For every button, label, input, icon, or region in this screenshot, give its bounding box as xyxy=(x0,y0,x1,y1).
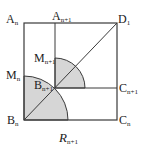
diagram-caption: Rn+1 xyxy=(58,130,78,146)
label-M-n1: Mn+1 xyxy=(34,51,56,66)
label-C-n: Cn xyxy=(119,113,131,128)
label-D-1: D1 xyxy=(118,12,131,27)
label-B-n: Bn xyxy=(7,113,19,128)
label-C-n1: Cn+1 xyxy=(119,81,138,96)
label-M-n: Mn xyxy=(6,68,21,83)
label-A-n: An xyxy=(6,12,19,27)
diagonal-line xyxy=(24,23,117,120)
geometry-diagram: An An+1 D1 Mn+1 Mn Bn+1 Cn+1 Bn Cn Rn+1 xyxy=(0,0,145,148)
label-A-n1: An+1 xyxy=(52,9,72,24)
